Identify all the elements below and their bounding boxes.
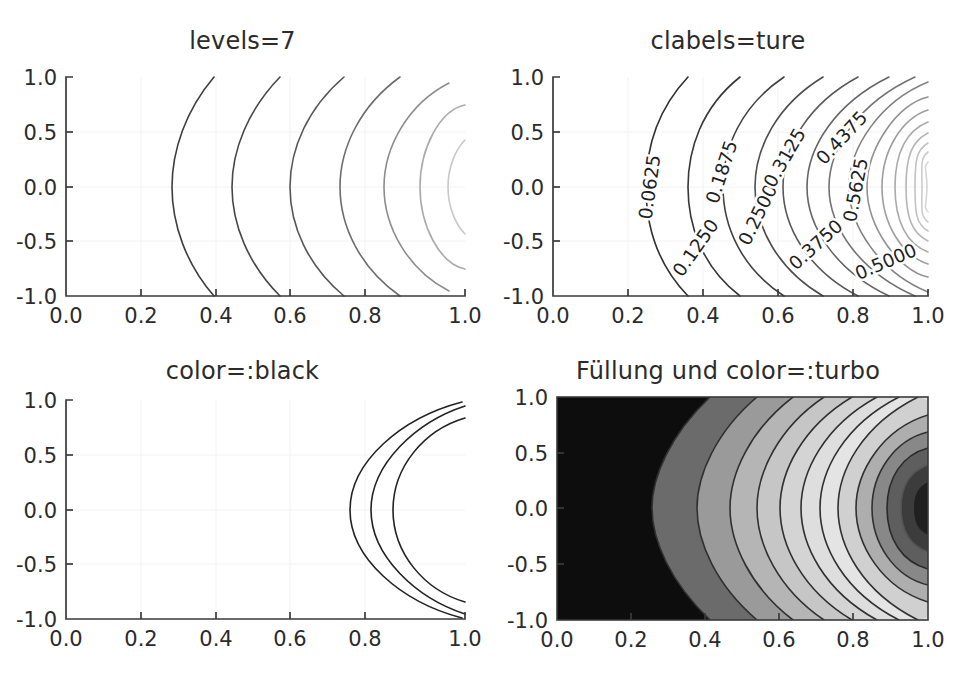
svg-text:0.8: 0.8 <box>348 304 381 328</box>
svg-text:0.0: 0.0 <box>24 499 57 523</box>
svg-text:0.0: 0.0 <box>536 304 569 328</box>
panel-title-black: color=:black <box>0 357 485 385</box>
svg-text:0.5: 0.5 <box>515 442 548 466</box>
svg-text:0.4: 0.4 <box>688 628 721 652</box>
svg-text:-0.5: -0.5 <box>503 230 544 254</box>
svg-text:1.0: 1.0 <box>515 386 548 410</box>
y-tick-labels-black: 1.0 0.5 0.0 -0.5 -1.0 <box>16 389 57 632</box>
svg-text:0.5: 0.5 <box>511 121 544 145</box>
svg-text:-0.5: -0.5 <box>16 553 57 577</box>
gridlines-levels <box>66 77 465 296</box>
svg-text:0.5: 0.5 <box>24 121 57 145</box>
svg-text:1.0: 1.0 <box>911 628 944 652</box>
y-tick-labels-turbo: 1.0 0.5 0.0 -0.5 -1.0 <box>507 386 548 633</box>
y-tick-labels-clabels: 1.0 0.5 0.0 -0.5 -1.0 <box>503 66 544 309</box>
panel-title-turbo: Füllung und color=:turbo <box>485 357 971 385</box>
panel-clabels: clabels=ture <box>485 0 971 340</box>
svg-text:0.5000: 0.5000 <box>852 239 920 284</box>
panel-title-levels: levels=7 <box>0 27 485 55</box>
svg-text:0.4: 0.4 <box>199 627 232 651</box>
svg-text:0.0: 0.0 <box>49 627 82 651</box>
svg-text:-0.5: -0.5 <box>16 230 57 254</box>
svg-text:0.8: 0.8 <box>836 304 869 328</box>
svg-text:0.0625: 0.0625 <box>635 153 665 220</box>
contour-labels-clabels: 0.0625 0.0625 0.1250 0.1250 0.1875 0.187… <box>635 107 920 284</box>
svg-text:0.6: 0.6 <box>761 304 794 328</box>
svg-text:0.5: 0.5 <box>24 444 57 468</box>
svg-text:0.0: 0.0 <box>511 176 544 200</box>
svg-text:0.0: 0.0 <box>515 497 548 521</box>
svg-text:0.2: 0.2 <box>124 304 157 328</box>
svg-text:0.0: 0.0 <box>24 176 57 200</box>
svg-text:1.0: 1.0 <box>24 389 57 413</box>
panel-levels: levels=7 <box>0 0 485 340</box>
x-tick-labels-clabels: 0.0 0.2 0.4 0.6 0.8 1.0 <box>536 304 944 328</box>
svg-text:-0.5: -0.5 <box>507 553 548 577</box>
svg-text:0.2: 0.2 <box>611 304 644 328</box>
svg-text:1.0: 1.0 <box>511 66 544 90</box>
svg-text:0.6: 0.6 <box>273 627 306 651</box>
svg-text:0.2500: 0.2500 <box>734 181 781 248</box>
svg-text:0.3125: 0.3125 <box>759 124 810 191</box>
svg-text:0.2: 0.2 <box>614 628 647 652</box>
svg-text:0.2: 0.2 <box>124 627 157 651</box>
panel-turbo-fill: Füllung und color=:turbo <box>485 340 971 678</box>
gridlines-black <box>66 400 465 619</box>
svg-text:0.1875: 0.1875 <box>702 138 742 206</box>
svg-text:0.8: 0.8 <box>836 628 869 652</box>
svg-text:1.0: 1.0 <box>911 304 944 328</box>
svg-text:1.0: 1.0 <box>448 304 481 328</box>
contour-figure: levels=7 <box>0 0 971 678</box>
svg-text:1.0: 1.0 <box>448 627 481 651</box>
svg-text:0.8: 0.8 <box>348 627 381 651</box>
x-tick-labels-levels: 0.0 0.2 0.4 0.6 0.8 1.0 <box>49 304 481 328</box>
svg-text:1.0: 1.0 <box>24 66 57 90</box>
plot-area-turbo: 1.0 0.5 0.0 -0.5 -1.0 0.0 0.2 0.4 0.6 0.… <box>485 340 971 678</box>
x-tick-labels-black: 0.0 0.2 0.4 0.6 0.8 1.0 <box>49 627 481 651</box>
svg-text:0.6: 0.6 <box>273 304 306 328</box>
svg-text:0.4: 0.4 <box>199 304 232 328</box>
panel-black: color=:black <box>0 340 485 678</box>
panel-title-clabels: clabels=ture <box>485 27 971 55</box>
plot-area-black: 1.0 0.5 0.0 -0.5 -1.0 0.0 0.2 0.4 0.6 0.… <box>0 340 485 678</box>
y-tick-labels-levels: 1.0 0.5 0.0 -0.5 -1.0 <box>16 66 57 309</box>
svg-text:0.6: 0.6 <box>762 628 795 652</box>
svg-text:0.0: 0.0 <box>540 628 573 652</box>
x-tick-labels-turbo: 0.0 0.2 0.4 0.6 0.8 1.0 <box>540 628 944 652</box>
svg-text:0.4: 0.4 <box>686 304 719 328</box>
svg-text:0.0: 0.0 <box>49 304 82 328</box>
